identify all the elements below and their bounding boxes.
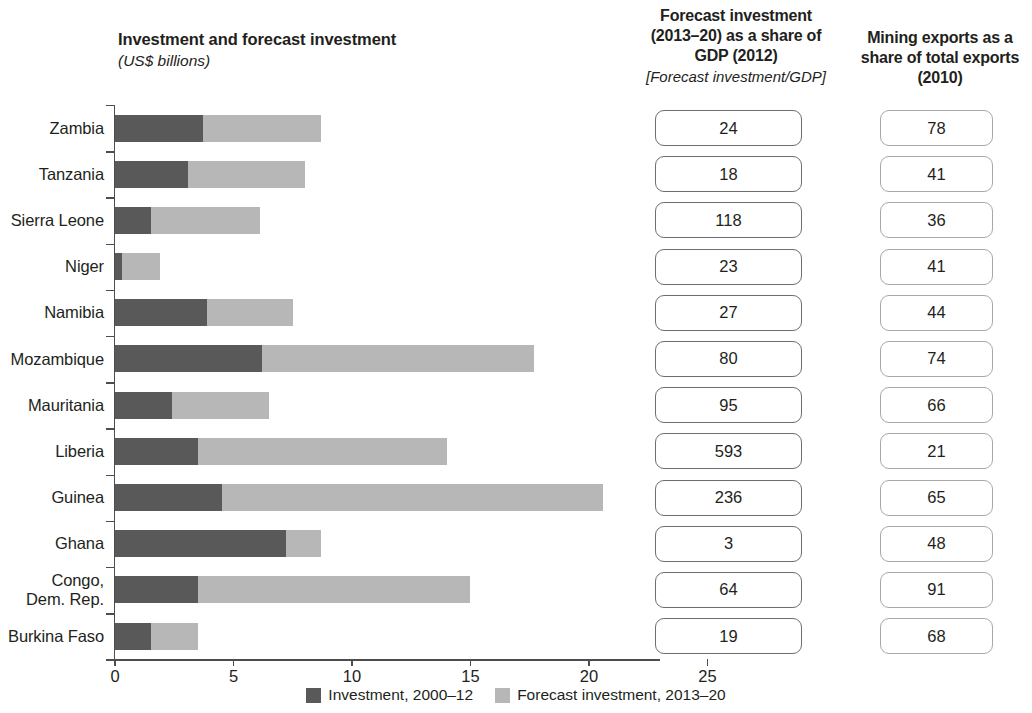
gdp-share-value-box: 118 — [655, 202, 802, 238]
chart-row: Zambia2478 — [0, 105, 1032, 151]
bar-segment-investment — [115, 438, 198, 465]
category-label: Niger — [65, 244, 113, 290]
mining-header-line-3: (2010) — [848, 68, 1032, 88]
bar-segment-forecast — [151, 623, 198, 650]
category-label: Sierra Leone — [11, 197, 113, 243]
x-axis-tick — [707, 659, 708, 666]
legend-item: Forecast investment, 2013–20 — [495, 686, 726, 704]
mining-exports-value-box: 66 — [880, 387, 993, 423]
x-axis-tick — [233, 659, 234, 666]
chart-plot-area: Zambia2478Tanzania1841Sierra Leone11836N… — [0, 105, 1032, 665]
y-axis-tick — [106, 336, 114, 337]
bar-segment-forecast — [286, 530, 322, 557]
x-axis-tick — [470, 659, 471, 666]
square-swatch-dark — [306, 688, 321, 703]
gdp-header-line-1: Forecast investment — [634, 6, 838, 26]
mining-exports-value-box: 41 — [880, 249, 993, 285]
bar-segment-investment — [115, 623, 151, 650]
legend-label: Forecast investment, 2013–20 — [517, 686, 726, 704]
category-label: Ghana — [55, 521, 113, 567]
chart-row: Burkina Faso1968 — [0, 613, 1032, 659]
bar-segment-forecast — [198, 576, 471, 603]
category-label: Burkina Faso — [8, 613, 113, 659]
bar-segment-investment — [115, 392, 172, 419]
bar-segment-forecast — [198, 438, 447, 465]
chart-rows: Zambia2478Tanzania1841Sierra Leone11836N… — [0, 105, 1032, 659]
stacked-bar — [115, 623, 198, 650]
y-axis-tick — [106, 382, 114, 383]
gdp-column-header: Forecast investment (2013–20) as a share… — [634, 6, 838, 87]
chart-subtitle: (US$ billions) — [118, 52, 548, 70]
category-label: Namibia — [44, 290, 113, 336]
stacked-bar — [115, 530, 321, 557]
stacked-bar — [115, 392, 269, 419]
category-label: Zambia — [50, 105, 113, 151]
category-label: Mauritania — [28, 382, 113, 428]
gdp-share-value-box: 3 — [655, 526, 802, 562]
x-axis-tick — [114, 659, 115, 666]
bar-segment-investment — [115, 484, 222, 511]
category-label: Liberia — [55, 428, 113, 474]
gdp-header-line-2: (2013–20) as a share of — [634, 26, 838, 46]
bar-segment-forecast — [122, 253, 160, 280]
bar-segment-forecast — [203, 115, 322, 142]
bar-segment-investment — [115, 115, 203, 142]
gdp-share-value-box: 23 — [655, 249, 802, 285]
x-axis-tick-label: 15 — [461, 667, 479, 686]
x-axis-line — [114, 659, 660, 661]
gdp-header-line-3: GDP (2012) — [634, 46, 838, 66]
bar-segment-investment — [115, 253, 122, 280]
gdp-share-value-box: 95 — [655, 387, 802, 423]
chart-title: Investment and forecast investment — [118, 30, 548, 49]
mining-exports-value-box: 41 — [880, 156, 993, 192]
chart-row: Tanzania1841 — [0, 151, 1032, 197]
x-axis-tick — [351, 659, 352, 666]
chart-row: Mozambique8074 — [0, 336, 1032, 382]
bar-segment-investment — [115, 576, 198, 603]
stacked-bar — [115, 161, 305, 188]
y-axis-tick — [106, 151, 114, 152]
mining-header-line-2: share of total exports — [848, 48, 1032, 68]
y-axis-tick — [106, 567, 114, 568]
bar-segment-forecast — [172, 392, 269, 419]
category-label: Tanzania — [39, 151, 113, 197]
x-axis-tick-label: 25 — [698, 667, 716, 686]
bar-segment-investment — [115, 161, 188, 188]
y-axis-tick — [106, 521, 114, 522]
chart-row: Namibia2744 — [0, 290, 1032, 336]
stacked-bar — [115, 253, 160, 280]
x-axis-tick-label: 5 — [229, 667, 238, 686]
x-axis-tick — [588, 659, 589, 666]
mining-exports-value-box: 65 — [880, 480, 993, 516]
mining-exports-value-box: 21 — [880, 433, 993, 469]
mining-exports-value-box: 74 — [880, 341, 993, 377]
category-label: Guinea — [51, 475, 113, 521]
y-axis-tick — [106, 105, 114, 106]
chart-legend: Investment, 2000–12Forecast investment, … — [0, 686, 1032, 704]
chart-header: Investment and forecast investment (US$ … — [118, 30, 548, 70]
legend-item: Investment, 2000–12 — [306, 686, 473, 704]
chart-row: Congo, Dem. Rep.6491 — [0, 567, 1032, 613]
bar-segment-investment — [115, 530, 286, 557]
category-label: Congo, Dem. Rep. — [26, 567, 113, 613]
gdp-share-value-box: 80 — [655, 341, 802, 377]
mining-exports-value-box: 48 — [880, 526, 993, 562]
stacked-bar — [115, 484, 603, 511]
chart-row: Ghana348 — [0, 521, 1032, 567]
gdp-share-value-box: 64 — [655, 572, 802, 608]
mining-exports-value-box: 68 — [880, 618, 993, 654]
gdp-share-value-box: 19 — [655, 618, 802, 654]
bar-segment-forecast — [262, 345, 535, 372]
bar-segment-investment — [115, 345, 262, 372]
chart-row: Guinea23665 — [0, 475, 1032, 521]
bar-segment-investment — [115, 207, 151, 234]
y-axis-tick — [106, 197, 114, 198]
bar-segment-forecast — [151, 207, 260, 234]
bar-segment-investment — [115, 299, 207, 326]
chart-row: Liberia59321 — [0, 428, 1032, 474]
column-headers: Investment and forecast investment (US$ … — [0, 0, 1032, 105]
gdp-share-value-box: 18 — [655, 156, 802, 192]
chart-row: Sierra Leone11836 — [0, 197, 1032, 243]
square-swatch-light — [495, 688, 510, 703]
category-label: Mozambique — [11, 336, 113, 382]
